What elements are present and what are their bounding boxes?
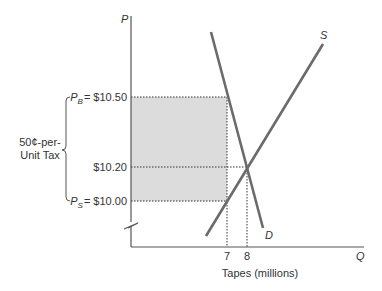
x-axis-title: Tapes (millions) [222,267,298,279]
tax-annotation-line1: 50¢-per- [19,136,61,148]
tax-incidence-diagram: P Q Tapes (millions) 7 8 PB= $10.50 $10.… [0,0,382,291]
pb-label: PB= $10.50 [70,91,127,106]
tick-7-label: 7 [224,250,230,262]
mid-price-label: $10.20 [93,161,127,173]
tax-brace [62,97,70,201]
tax-revenue-area [131,97,227,201]
demand-label: D [265,229,273,241]
q-axis-label: Q [356,250,365,262]
tick-8-label: 8 [244,250,250,262]
tax-annotation-line2: Unit Tax [20,149,60,161]
p-axis-label: P [121,13,129,25]
supply-label: S [320,29,328,41]
ps-label: PS= $10.00 [70,195,127,210]
